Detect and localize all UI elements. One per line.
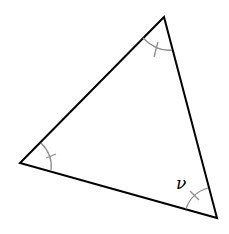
angle-mark-left [41,143,56,170]
angle-mark-top [143,38,172,57]
angle-mark-bottom-right [186,188,208,209]
triangle [20,17,217,218]
angle-label-nu: ν [176,173,186,193]
triangle-diagram: ν [0,0,229,234]
